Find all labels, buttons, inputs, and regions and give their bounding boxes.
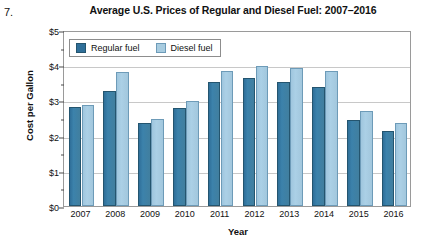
legend-swatch-diesel (156, 43, 166, 53)
x-axis-tick-label: 2016 (376, 209, 411, 219)
problem-number: 7. (4, 6, 13, 18)
bar-regular-2012 (243, 78, 256, 206)
x-axis-tick-label: 2007 (63, 209, 98, 219)
x-axis-tick-label: 2009 (133, 209, 168, 219)
y-axis-tick (59, 102, 64, 103)
bar-diesel-2016 (395, 123, 408, 206)
y-axis-tick-label: $4 (35, 62, 59, 72)
y-axis-tick-label: $5 (35, 27, 59, 37)
bar-regular-2008 (103, 91, 116, 206)
y-axis-minor-tick (61, 120, 64, 121)
bar-diesel-2009 (151, 119, 164, 206)
plot-area: $0$1$2$3$4$5 (63, 31, 411, 207)
x-axis-tick-label: 2015 (341, 209, 376, 219)
x-axis-label: Year (63, 226, 413, 237)
bar-diesel-2012 (256, 66, 269, 206)
bar-diesel-2014 (325, 71, 338, 206)
bar-regular-2011 (208, 82, 221, 206)
legend-label-regular: Regular fuel (91, 43, 140, 53)
y-axis-tick (59, 32, 64, 33)
chart-legend: Regular fuelDiesel fuel (69, 39, 221, 57)
bar-regular-2010 (173, 108, 186, 206)
y-axis-tick (59, 172, 64, 173)
gridline (64, 67, 410, 68)
y-axis-tick-label: $1 (35, 168, 59, 178)
bar-regular-2013 (277, 82, 290, 206)
bar-regular-2009 (138, 123, 151, 206)
bar-diesel-2007 (82, 105, 95, 206)
legend-label-diesel: Diesel fuel (171, 43, 213, 53)
x-axis-tick-label: 2013 (272, 209, 307, 219)
bar-diesel-2015 (360, 111, 373, 206)
chart-title: Average U.S. Prices of Regular and Diese… (58, 4, 408, 16)
legend-item-diesel: Diesel fuel (156, 43, 213, 53)
bar-diesel-2011 (221, 71, 234, 206)
legend-swatch-regular (76, 43, 86, 53)
x-axis-tick-label: 2010 (167, 209, 202, 219)
bar-regular-2016 (382, 131, 395, 206)
chart-figure: 7. Average U.S. Prices of Regular and Di… (0, 0, 422, 243)
bar-diesel-2010 (186, 101, 199, 206)
bar-regular-2015 (347, 120, 360, 206)
bar-diesel-2013 (290, 68, 303, 206)
y-axis-tick-label: $2 (35, 133, 59, 143)
legend-item-regular: Regular fuel (76, 43, 140, 53)
x-axis-tick-label: 2014 (307, 209, 342, 219)
y-axis-tick (59, 137, 64, 138)
bar-diesel-2008 (116, 72, 129, 206)
y-axis-minor-tick (61, 155, 64, 156)
bar-regular-2014 (312, 87, 325, 206)
y-axis-minor-tick (61, 84, 64, 85)
y-axis-label: Cost per Gallon (24, 56, 35, 156)
x-axis-tick-label: 2012 (237, 209, 272, 219)
y-axis-tick-label: $0 (35, 203, 59, 213)
x-axis-tick-label: 2011 (202, 209, 237, 219)
bar-regular-2007 (69, 107, 82, 206)
y-axis-minor-tick (61, 190, 64, 191)
y-axis-tick-label: $3 (35, 97, 59, 107)
x-axis-tick-label: 2008 (98, 209, 133, 219)
y-axis-tick (59, 67, 64, 68)
y-axis-minor-tick (61, 49, 64, 50)
